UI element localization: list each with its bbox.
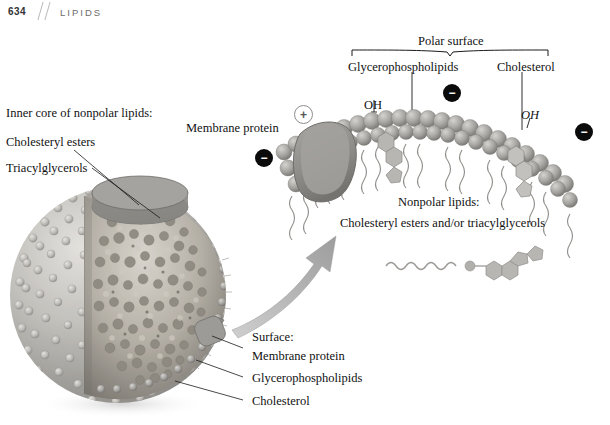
label-cholesteryl-esters: Cholesteryl esters	[6, 135, 95, 149]
cholesterol-molecule-left	[378, 132, 402, 183]
magnification-arrow	[232, 236, 336, 338]
page-header: 634 LIPIDS	[0, 0, 610, 26]
phospholipid-monolayer	[276, 110, 578, 208]
header-slash-icon	[37, 2, 43, 20]
label-cholesterol-bottom: Cholesterol	[252, 394, 310, 408]
label-nonpolar-lipids-text: Cholesteryl esters and/or triacylglycero…	[340, 216, 545, 230]
label-glycerophospholipids-detail: Glycerophospholipids	[348, 60, 458, 74]
label-surface-heading: Surface:	[252, 330, 294, 344]
label-hydroxyl-right: OH	[521, 108, 539, 122]
cholesterol-molecule-right	[508, 146, 532, 197]
polar-surface-bracket	[352, 50, 548, 56]
membrane-protein-right	[192, 314, 228, 349]
header-slash-icon-2	[44, 2, 50, 20]
label-nonpolar-lipids-heading: Nonpolar lipids:	[398, 195, 480, 209]
page-number: 634	[8, 6, 26, 17]
section-title: LIPIDS	[60, 7, 102, 18]
label-membrane-protein-bottom: Membrane protein	[252, 349, 345, 363]
negative-charge-right: −	[575, 123, 593, 141]
label-inner-core-heading: Inner core of nonpolar lipids:	[6, 106, 152, 120]
lipoprotein-particle	[10, 176, 232, 405]
sphere-leader-lines	[74, 150, 243, 400]
figure-canvas: 634 LIPIDS	[0, 0, 610, 425]
membrane-protein-detail	[293, 122, 356, 202]
label-cholesterol-detail: Cholesterol	[497, 60, 555, 74]
negative-charge-left: −	[255, 149, 273, 167]
membrane-protein-top	[92, 176, 188, 224]
label-polar-surface: Polar surface	[418, 34, 484, 48]
label-membrane-protein-detail: Membrane protein	[186, 121, 279, 135]
label-triacylglycerols: Triacylglycerols	[6, 161, 87, 175]
negative-charge-middle: −	[443, 84, 461, 102]
label-hydroxyl-left: OH	[364, 98, 382, 112]
positive-charge: +	[294, 105, 313, 124]
label-glycerophospholipids-bottom: Glycerophospholipids	[252, 371, 362, 385]
cholesteryl-ester-molecule	[386, 246, 543, 280]
